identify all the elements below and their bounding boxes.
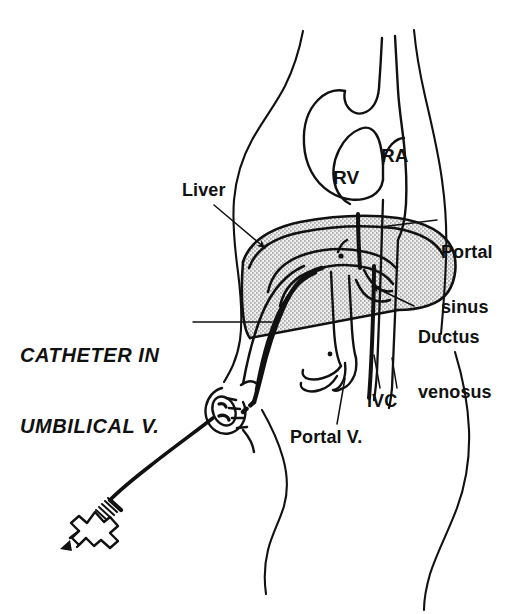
label-catheter-in-umbilical-vein: CATHETER IN UMBILICAL V. [20,297,160,486]
label-right-ventricle: RV [333,168,359,187]
label-ductus-venosus: Ductus venosus [418,291,492,438]
catheter-hub [60,498,121,551]
label-ivc: IVC [367,392,397,410]
label-catheter-line2: UMBILICAL V. [20,415,160,439]
label-ductus-venosus-line2: venosus [418,383,492,401]
umbilicus [205,381,257,452]
leader-liver [214,205,265,248]
label-catheter-line1: CATHETER IN [20,344,160,368]
anatomical-diagram: Liver RV RA Portal sinus Ductus venosus … [0,0,523,614]
label-ductus-venosus-line1: Ductus [418,328,492,346]
label-portal-vein: Portal V. [290,428,362,446]
label-right-atrium: RA [381,146,409,165]
heart [304,36,407,240]
label-portal-sinus-line1: Portal [441,243,493,261]
label-liver: Liver [182,181,226,199]
